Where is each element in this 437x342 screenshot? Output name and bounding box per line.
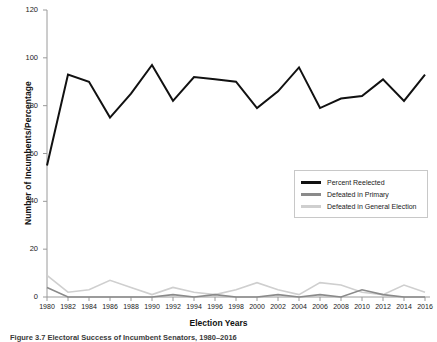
y-tick-label: 20 — [14, 244, 38, 253]
x-tick-label: 2016 — [412, 303, 437, 310]
y-tick-label: 80 — [14, 101, 38, 110]
legend-swatch-percent-reelected — [301, 181, 321, 184]
axis-lines — [47, 10, 430, 297]
y-tick-marks — [43, 10, 47, 297]
y-tick-label: 60 — [14, 149, 38, 158]
legend-item: Defeated in Primary — [301, 188, 421, 200]
legend-item: Percent Reelected — [301, 176, 421, 188]
legend-item: Defeated in General Election — [301, 200, 421, 212]
chart-legend: Percent Reelected Defeated in Primary De… — [294, 170, 428, 218]
legend-swatch-defeated-in-general-election — [301, 205, 321, 208]
y-tick-label: 100 — [14, 53, 38, 62]
y-tick-label: 40 — [14, 196, 38, 205]
legend-swatch-defeated-in-primary — [301, 193, 321, 196]
y-tick-label: 120 — [14, 5, 38, 14]
figure-container: Number of Incumbents/Percentage Election… — [0, 0, 437, 342]
series-line — [47, 65, 425, 165]
figure-caption: Figure 3.7 Electoral Success of Incumben… — [10, 333, 430, 342]
y-tick-label: 0 — [14, 292, 38, 301]
legend-label: Defeated in General Election — [327, 203, 417, 210]
legend-label: Percent Reelected — [327, 179, 385, 186]
x-axis-title: Election Years — [0, 318, 437, 328]
legend-label: Defeated in Primary — [327, 191, 389, 198]
